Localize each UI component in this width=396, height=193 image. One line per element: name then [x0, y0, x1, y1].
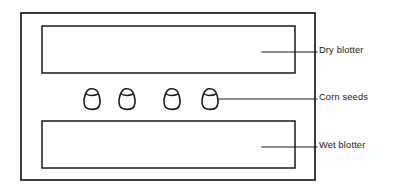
germination-diagram: Dry blotter Corn seeds Wet blotter	[0, 0, 396, 193]
callout-label-corn-seeds: Corn seeds	[319, 92, 368, 103]
corn-seed-outline	[119, 89, 135, 110]
callout-label-wet-blotter: Wet blotter	[319, 140, 365, 151]
corn-seed-3	[164, 89, 180, 110]
corn-seed-outline	[84, 89, 100, 110]
callout-label-dry-blotter: Dry blotter	[319, 45, 364, 56]
corn-seed-2	[119, 89, 135, 110]
wet-blotter-rect	[42, 121, 295, 168]
dry-blotter-rect	[42, 26, 295, 73]
corn-seed-4	[202, 89, 218, 110]
corn-seed-1	[84, 89, 100, 110]
corn-seed-outline	[164, 89, 180, 110]
corn-seed-outline	[202, 89, 218, 110]
